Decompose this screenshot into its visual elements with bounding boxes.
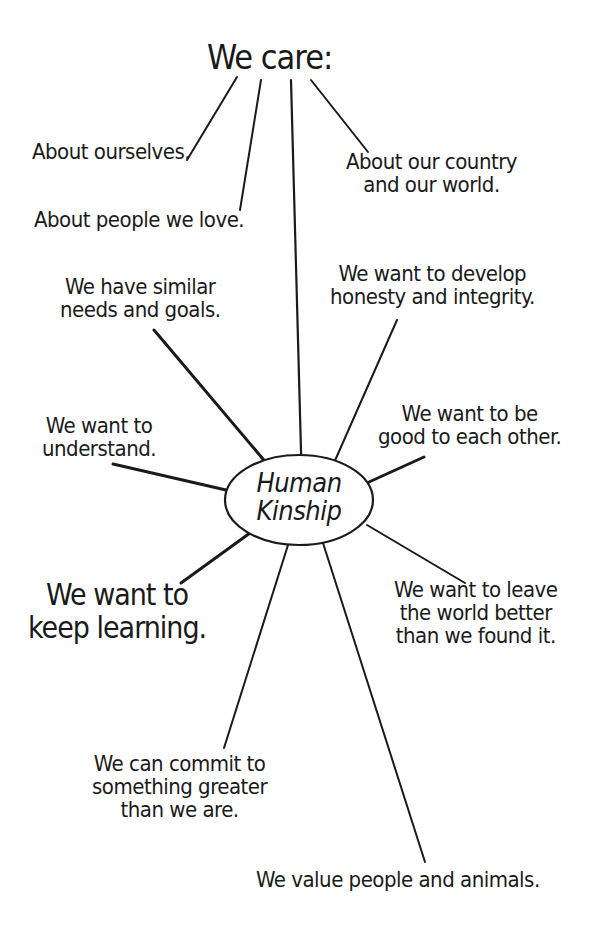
kinship-diagram: We care: About ourselves. About people w… bbox=[0, 0, 604, 949]
label-good-to-each-other: We want to be good to each other. bbox=[378, 402, 561, 448]
connector-similar-needs bbox=[154, 330, 268, 465]
connector-commit bbox=[224, 545, 288, 748]
connector-leave-world bbox=[367, 525, 465, 583]
label-about-country-world: About our country and our world. bbox=[346, 150, 517, 196]
center-label-human-kinship: Human Kinship bbox=[244, 469, 354, 526]
connector-care-kinship bbox=[291, 80, 302, 488]
connector-keep-learning bbox=[181, 533, 250, 583]
connector-care-ourselves bbox=[187, 77, 237, 160]
connector-care-country bbox=[311, 80, 368, 152]
label-keep-learning: We want to keep learning. bbox=[28, 578, 206, 644]
label-develop-honesty: We want to develop honesty and integrity… bbox=[330, 262, 535, 308]
connector-care-people-we-love bbox=[240, 80, 261, 210]
connector-understand bbox=[113, 464, 226, 490]
label-value-people-animals: We value people and animals. bbox=[256, 868, 540, 891]
label-leave-world-better: We want to leave the world better than w… bbox=[394, 578, 558, 647]
label-about-ourselves: About ourselves. bbox=[32, 140, 190, 163]
label-commit-greater: We can commit to something greater than … bbox=[92, 752, 267, 821]
label-similar-needs: We have similar needs and goals. bbox=[60, 275, 221, 321]
label-about-people-we-love: About people we love. bbox=[34, 208, 244, 231]
label-understand: We want to understand. bbox=[42, 414, 156, 460]
connector-good-to-each-other bbox=[369, 457, 424, 482]
diagram-title: We care: bbox=[207, 40, 332, 76]
